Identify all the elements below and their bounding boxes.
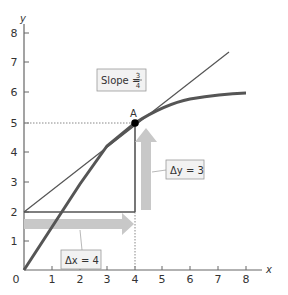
svg-text:3: 3 [11,176,18,189]
point-a-label: A [130,108,137,119]
slope-denominator: 4 [136,82,141,90]
delta-x-label: Δx = 4 [65,255,99,266]
svg-text:1: 1 [11,235,18,248]
x-axis-label: x [265,264,272,275]
delta-y-label: Δy = 3 [170,165,204,176]
x-tick-labels: 0 1 2 3 4 5 6 7 8 [13,273,250,286]
svg-text:4: 4 [132,273,139,286]
svg-text:8: 8 [11,27,18,40]
delta-x-leader [80,230,82,250]
delta-y-leader [152,170,166,172]
y-tick-labels: 1 2 3 4 5 6 7 8 [11,27,18,248]
slope-label: Slope = [101,75,140,86]
svg-text:3: 3 [104,273,111,286]
svg-text:1: 1 [49,273,56,286]
svg-text:4: 4 [11,146,18,159]
svg-text:2: 2 [11,206,18,219]
svg-text:0: 0 [13,273,20,286]
y-axis-label: y [19,13,27,24]
svg-text:5: 5 [159,273,166,286]
point-a [131,119,139,127]
delta-y-arrow [135,128,157,210]
chart-canvas: x y 0 1 2 3 4 5 6 7 8 1 2 3 4 5 6 7 8 [0,0,288,295]
svg-text:7: 7 [215,273,222,286]
svg-text:6: 6 [187,273,194,286]
svg-text:5: 5 [11,117,18,130]
svg-text:8: 8 [243,273,250,286]
svg-text:6: 6 [11,86,18,99]
slope-numerator: 3 [136,72,140,80]
svg-text:7: 7 [11,56,18,69]
svg-text:2: 2 [77,273,84,286]
delta-x-arrow [24,213,134,235]
